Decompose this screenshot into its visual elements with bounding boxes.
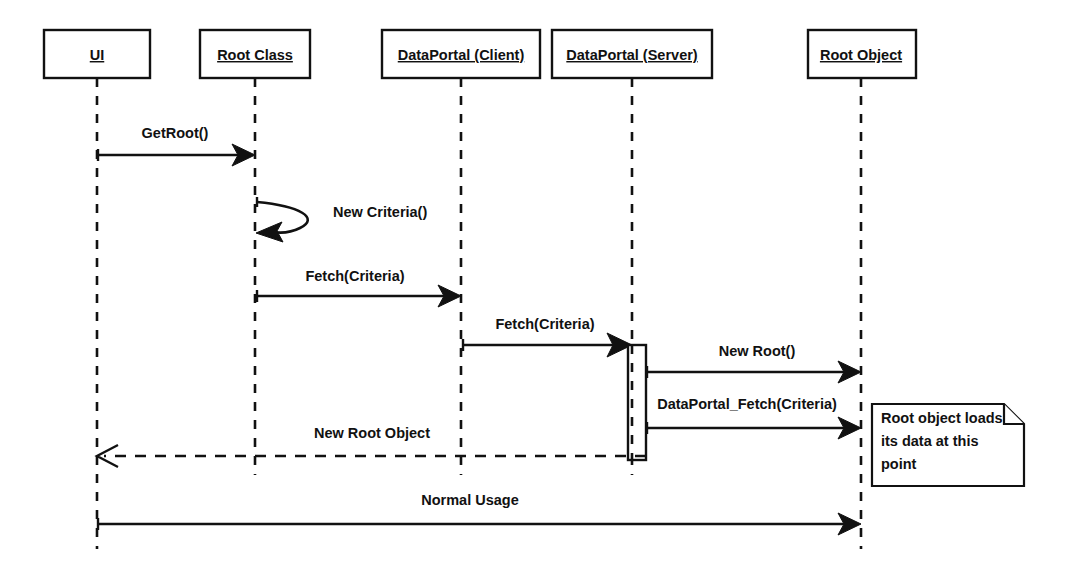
message-label-fetch-criteria-client: Fetch(Criteria) <box>305 268 404 284</box>
message-fetch-criteria-client[interactable]: Fetch(Criteria) <box>256 268 461 307</box>
participant-label-root-class: Root Class <box>217 47 293 63</box>
arrowhead-new-root-object <box>97 445 118 467</box>
note-root-object-loads: Root object loads its data at this point <box>872 404 1024 486</box>
participant-dataportal-client[interactable]: DataPortal (Client) <box>382 30 540 78</box>
participant-ui[interactable]: UI <box>44 30 150 78</box>
lifelines-group <box>97 78 861 549</box>
message-fetch-criteria-server[interactable]: Fetch(Criteria) <box>462 316 632 357</box>
participant-label-ui: UI <box>90 47 105 63</box>
sequence-diagram-canvas: UI Root Class DataPortal (Client) DataPo… <box>0 0 1072 569</box>
note-line-1-root-object-loads: Root object loads <box>881 410 1003 426</box>
message-new-root[interactable]: New Root() <box>646 343 861 383</box>
participant-boxes-group: UI Root Class DataPortal (Client) DataPo… <box>44 30 916 78</box>
message-new-criteria[interactable]: New Criteria() <box>256 197 427 242</box>
participant-root-class[interactable]: Root Class <box>200 30 310 78</box>
message-normal-usage[interactable]: Normal Usage <box>97 492 861 535</box>
activation-dataportal-server <box>628 345 646 460</box>
message-label-dataportal-fetch: DataPortal_Fetch(Criteria) <box>657 396 837 412</box>
participant-label-root-object: Root Object <box>820 47 902 63</box>
message-label-fetch-criteria-server: Fetch(Criteria) <box>495 316 594 332</box>
note-fold-corner-root-object-loads <box>1004 404 1024 424</box>
message-label-new-criteria: New Criteria() <box>333 204 427 220</box>
message-label-new-root: New Root() <box>719 343 796 359</box>
participant-label-dataportal-server: DataPortal (Server) <box>566 47 698 63</box>
sequence-diagram-svg: UI Root Class DataPortal (Client) DataPo… <box>0 0 1072 569</box>
participant-dataportal-server[interactable]: DataPortal (Server) <box>552 30 712 78</box>
message-line-new-criteria <box>257 202 308 233</box>
message-label-new-root-object: New Root Object <box>314 425 430 441</box>
note-line-3-root-object-loads: point <box>881 456 917 472</box>
message-label-normal-usage: Normal Usage <box>421 492 519 508</box>
message-getroot[interactable]: GetRoot() <box>97 125 255 166</box>
message-label-getroot: GetRoot() <box>142 125 209 141</box>
message-dataportal-fetch[interactable]: DataPortal_Fetch(Criteria) <box>646 396 861 439</box>
message-new-root-object[interactable]: New Root Object <box>97 425 646 467</box>
participant-label-dataportal-client: DataPortal (Client) <box>398 47 525 63</box>
participant-root-object[interactable]: Root Object <box>808 30 916 78</box>
note-line-2-root-object-loads: its data at this <box>881 433 979 449</box>
